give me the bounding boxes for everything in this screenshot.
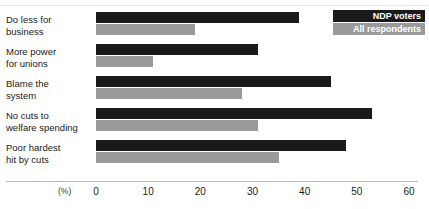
legend-label: NDP voters — [373, 10, 421, 22]
category-label: No cuts to welfare spending — [6, 110, 92, 133]
category-label: More power for unions — [6, 46, 92, 69]
x-tick-label: 40 — [299, 186, 310, 197]
x-axis-line — [6, 181, 418, 182]
bar-all-respondents — [96, 56, 153, 67]
category-label: Do less for business — [6, 14, 92, 37]
legend-label: All respondents — [353, 23, 421, 35]
bar-all-respondents — [96, 152, 279, 163]
bar-all-respondents — [96, 88, 242, 99]
legend: NDP voters All respondents — [333, 10, 425, 36]
x-tick-label: 60 — [403, 186, 414, 197]
legend-item-all-respondents: All respondents — [333, 23, 425, 35]
bar-ndp-voters — [96, 44, 258, 55]
x-tick-label: 30 — [247, 186, 258, 197]
bar-ndp-voters — [96, 12, 299, 23]
bar-ndp-voters — [96, 108, 372, 119]
legend-item-ndp-voters: NDP voters — [333, 10, 425, 22]
x-axis-unit-label: (%) — [58, 186, 71, 196]
top-rule-divider — [0, 5, 429, 6]
category-label: Poor hardest hit by cuts — [6, 142, 92, 165]
bar-ndp-voters — [96, 140, 346, 151]
bar-chart: Do less for business More power for unio… — [0, 0, 429, 209]
plot-area — [96, 12, 409, 172]
bar-ndp-voters — [96, 76, 331, 87]
bar-all-respondents — [96, 24, 195, 35]
bar-all-respondents — [96, 120, 258, 131]
x-tick-label: 50 — [351, 186, 362, 197]
x-tick-label: 20 — [195, 186, 206, 197]
x-tick-label: 10 — [143, 186, 154, 197]
category-label: Blame the system — [6, 78, 92, 101]
x-tick-label: 0 — [93, 186, 99, 197]
